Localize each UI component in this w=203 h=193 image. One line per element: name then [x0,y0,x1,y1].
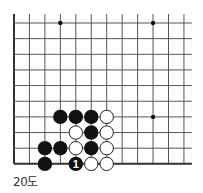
white-stone [85,157,98,170]
white-stone [69,126,82,139]
star-point-icon [151,21,155,25]
white-stone [100,126,113,139]
black-stone [53,110,67,124]
white-stone [100,142,113,155]
black-stone [69,110,83,124]
go-board-diagram: 1 [0,0,203,172]
black-stone [84,110,98,124]
move-number-label: 1 [73,158,79,170]
diagram-caption: 20도 [13,172,38,189]
star-point-icon [58,21,62,25]
white-stone [69,142,82,155]
black-stone [38,157,52,171]
black-stone [53,141,67,155]
star-point-icon [151,115,155,119]
white-stone [100,110,113,123]
white-stone [100,157,113,170]
black-stone [84,125,98,139]
black-stone [38,141,52,155]
black-stone [84,141,98,155]
